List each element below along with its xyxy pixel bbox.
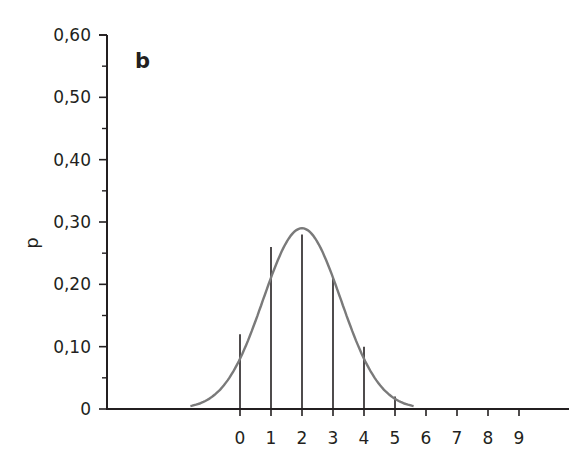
y-axis: 00,100,200,300,400,500,60 [53, 25, 107, 419]
x-axis: 0123456789 [107, 409, 569, 448]
chart: 00,100,200,300,400,500,60 0123456789 b p [0, 0, 569, 461]
x-tick-label: 4 [359, 428, 370, 448]
y-tick-label: 0,10 [53, 337, 91, 357]
y-tick-label: 0,60 [53, 25, 91, 45]
x-tick-label: 3 [328, 428, 339, 448]
y-axis-label: p [21, 237, 42, 248]
y-tick-label: 0,30 [53, 212, 91, 232]
panel-label: b [135, 49, 150, 73]
x-tick-label: 7 [452, 428, 463, 448]
x-tick-label: 8 [483, 428, 494, 448]
x-tick-label: 6 [421, 428, 432, 448]
y-tick-label: 0,40 [53, 150, 91, 170]
x-tick-label: 5 [390, 428, 401, 448]
x-tick-label: 2 [297, 428, 308, 448]
x-tick-label: 9 [514, 428, 525, 448]
probability-stems [240, 234, 395, 409]
x-tick-label: 1 [266, 428, 277, 448]
y-tick-label: 0,20 [53, 274, 91, 294]
y-tick-label: 0 [80, 399, 91, 419]
x-tick-label: 0 [235, 428, 246, 448]
y-tick-label: 0,50 [53, 87, 91, 107]
